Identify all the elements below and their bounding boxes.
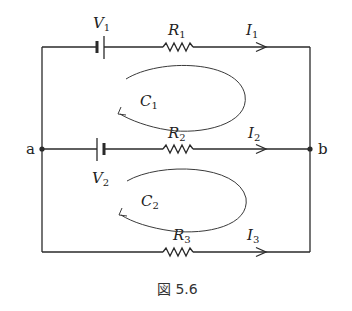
resistor-r3-icon [163, 248, 193, 256]
top-branch: V1 R1 I1 [42, 14, 310, 59]
resistor-r1-icon [163, 43, 193, 51]
label-i2: I2 [247, 124, 260, 143]
loop-c1-arc [120, 65, 245, 131]
loop-c1-arrowhead-icon [118, 107, 126, 115]
label-r1: R1 [167, 21, 186, 40]
resistor-r2-icon [163, 145, 193, 153]
loop-c1: C1 [118, 65, 245, 131]
node-a-label: a [26, 140, 35, 158]
battery-v1-icon [96, 36, 105, 59]
node-b-dot [307, 146, 312, 151]
loop-c2-arrowhead-icon [119, 208, 127, 216]
label-i1: I1 [245, 21, 258, 40]
label-c1: C1 [140, 92, 158, 111]
figure-caption: 図 5.6 [157, 281, 198, 297]
battery-v2-icon [97, 138, 106, 161]
label-r2: R2 [167, 124, 186, 143]
label-v2: V2 [92, 169, 109, 188]
label-v1: V1 [93, 14, 110, 33]
middle-branch: V2 R2 I2 [42, 124, 310, 188]
loop-c2-arc [121, 169, 246, 232]
loop-c2: C2 [119, 169, 246, 232]
label-c2: C2 [141, 192, 159, 211]
bottom-branch: R3 I3 [42, 226, 310, 257]
node-a-dot [39, 146, 44, 151]
label-i3: I3 [246, 226, 259, 245]
circuit-diagram: V1 R1 I1 V2 R2 I2 R3 I3 a b [0, 0, 352, 311]
node-b-label: b [318, 140, 328, 158]
label-r3: R3 [172, 226, 191, 245]
